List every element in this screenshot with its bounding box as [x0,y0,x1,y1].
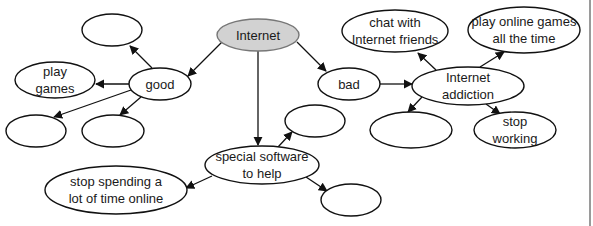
node-label: Internet [236,28,280,43]
edge-arrow-good-to-good-empty-mid [120,97,141,115]
node-good: good [129,68,191,100]
node-label: Internet [446,70,490,85]
node-good-empty-top [82,14,142,46]
node-label: working [492,131,538,146]
node-special-software: special softwareto help [205,146,319,184]
node-label: stop spending a [70,174,163,189]
node-label: good [146,77,175,92]
edge-arrow-internet-addiction-to-chat-with-friends [418,53,436,70]
node-internet: Internet [217,19,299,51]
edge-arrow-internet-to-bad [297,42,326,71]
page-edge-divider [589,0,591,226]
node-label: special software [215,149,308,164]
node-stop-spending: stop spending alot of time online [45,166,187,214]
node-addiction-empty [370,112,452,148]
node-label: games [35,81,75,96]
node-internet-addiction: Internetaddiction [412,67,524,105]
node-good-empty-mid [82,115,144,147]
node-label: stop [503,114,528,129]
node-label: Internet friends [352,32,439,47]
node-label: all the time [493,31,556,46]
node-chat-with-friends: chat withInternet friends [342,10,448,52]
node-bad: bad [318,68,380,100]
edge-arrow-internet-addiction-to-stop-working [486,104,500,114]
node-label: to help [242,166,281,181]
edge-arrow-special-software-to-software-empty-top [278,132,292,147]
node-ellipse [6,115,66,147]
node-label: play [43,64,67,79]
edge-arrow-internet-addiction-to-addiction-empty [408,97,422,112]
edge-arrow-internet-to-good [188,42,222,76]
edge-arrow-good-to-good-empty-top [130,46,152,68]
node-label: chat with [369,15,420,30]
internet-mind-map: Internetgoodbadplaygameschat withInterne… [0,0,593,226]
node-label: play online games [472,14,577,29]
node-ellipse [285,105,345,137]
node-label: bad [338,77,360,92]
node-ellipse [82,14,142,46]
node-ellipse [321,184,381,216]
node-ellipse [370,112,452,148]
node-ellipse [82,115,144,147]
node-label: lot of time online [69,191,164,206]
edge-arrow-internet-addiction-to-play-online-games [480,52,504,67]
node-software-empty-top [285,105,345,137]
node-play-online-games: play online gamesall the time [468,7,580,53]
edge-arrow-special-software-to-stop-spending [186,176,212,188]
node-software-empty-bottom [321,184,381,216]
nodes-layer: Internetgoodbadplaygameschat withInterne… [6,7,580,216]
node-play-games: playgames [15,62,95,98]
node-label: addiction [442,87,494,102]
node-stop-working: stopworking [474,112,556,148]
node-good-empty-left [6,115,66,147]
edge-arrow-special-software-to-software-empty-bottom [306,177,327,191]
